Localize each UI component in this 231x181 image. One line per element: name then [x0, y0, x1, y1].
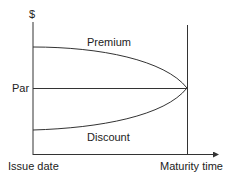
discount-curve [33, 88, 187, 130]
maturity-time-label: Maturity time [160, 160, 223, 172]
bond-price-convergence-diagram: $ Par Premium Discount Issue date Maturi… [0, 0, 231, 181]
premium-curve [33, 47, 187, 88]
issue-date-label: Issue date [8, 160, 59, 172]
discount-label: Discount [87, 131, 130, 143]
par-label: Par [12, 82, 29, 94]
premium-label: Premium [87, 36, 131, 48]
y-axis-label: $ [29, 8, 35, 20]
